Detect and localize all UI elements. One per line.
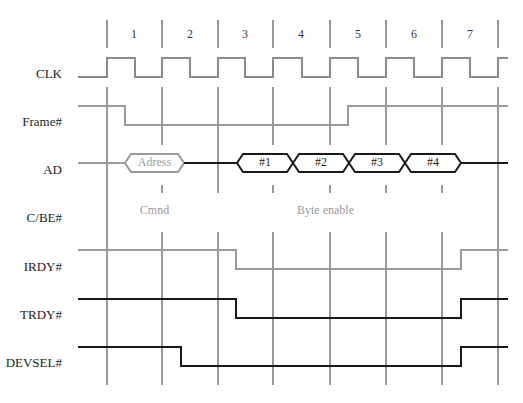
frame-waveform <box>78 106 508 125</box>
cycle-number-2: 2 <box>180 27 200 42</box>
cycle-number-6: 6 <box>404 27 424 42</box>
signal-label-devsel: DEVSEL# <box>0 355 62 371</box>
cycle-number-3: 3 <box>235 27 255 42</box>
trdy-waveform <box>78 299 508 318</box>
cycle-number-4: 4 <box>291 27 311 42</box>
signal-label-frame: Frame# <box>0 114 62 130</box>
cycle-number-5: 5 <box>348 27 368 42</box>
ad-data-1-label: #1 <box>237 155 293 170</box>
ad-data-3-label: #3 <box>349 155 405 170</box>
clk-waveform <box>78 58 508 77</box>
ad-address-label: Adress <box>125 155 184 170</box>
signal-label-ad: AD <box>0 162 62 178</box>
devsel-waveform <box>78 347 508 366</box>
ad-data-4-label: #4 <box>405 155 461 170</box>
cycle-number-1: 1 <box>124 27 144 42</box>
signal-label-cbe: C/BE# <box>0 210 62 226</box>
signal-label-irdy: IRDY# <box>0 259 62 275</box>
cbe-byte-enable-label: Byte enable <box>184 203 467 218</box>
irdy-waveform <box>78 250 508 269</box>
cbe-command-label: Cmnd <box>125 203 184 218</box>
signal-label-clk: CLK <box>0 66 62 82</box>
signal-label-trdy: TRDY# <box>0 307 62 323</box>
ad-data-2-label: #2 <box>293 155 349 170</box>
cycle-number-7: 7 <box>460 27 480 42</box>
timing-diagram <box>0 0 523 403</box>
